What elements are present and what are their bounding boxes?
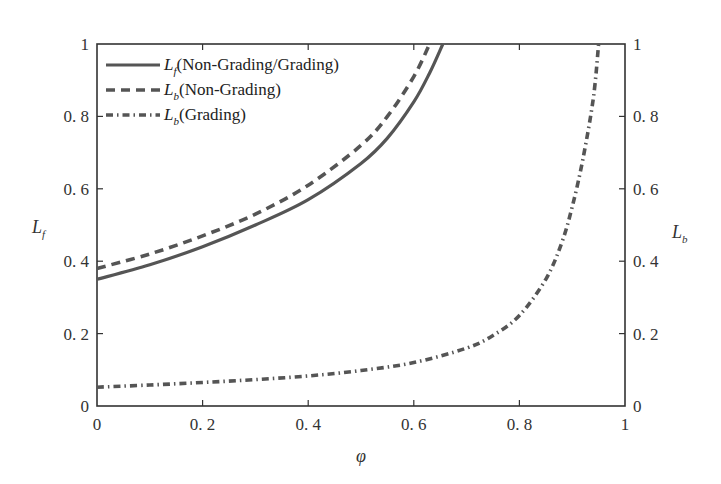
y-tick-label-right: 0. 4 (633, 252, 659, 271)
y-tick-label-right: 0. 2 (633, 325, 659, 344)
y-tick-label-right: 1 (633, 35, 642, 54)
y-tick-label-right: 0. 6 (633, 180, 659, 199)
x-tick-label: 0. 8 (507, 415, 533, 434)
y-tick-label-left: 0 (81, 397, 90, 416)
x-tick-label: 0. 6 (401, 415, 427, 434)
y-tick-label-right: 0 (633, 397, 642, 416)
y-tick-label-left: 0. 6 (64, 180, 90, 199)
x-tick-label: 0. 4 (295, 415, 321, 434)
legend: Lf(Non-Grading/Grading)Lb(Non-Grading)Lb… (106, 55, 339, 127)
legend-label-1: Lb(Non-Grading) (163, 80, 281, 102)
y-axis-title-right: Lb (671, 222, 688, 245)
axis-titles: φLfLb (31, 217, 688, 466)
y-tick-label-right: 0. 8 (633, 107, 659, 126)
y-axis-title-left: Lf (31, 217, 47, 240)
y-tick-label-left: 0. 4 (64, 252, 90, 271)
legend-label-2: Lb(Grading) (163, 105, 246, 127)
line-chart: 00. 20. 40. 60. 8100. 20. 40. 60. 8100. … (0, 0, 721, 484)
y-tick-label-left: 0. 2 (64, 325, 90, 344)
x-tick-label: 1 (621, 415, 630, 434)
series-line-1 (97, 44, 430, 268)
x-axis-title: φ (356, 446, 366, 466)
x-tick-label: 0. 2 (190, 415, 216, 434)
legend-label-0: Lf(Non-Grading/Grading) (163, 55, 339, 77)
y-tick-label-left: 1 (81, 35, 90, 54)
axis-ticks: 00. 20. 40. 60. 8100. 20. 40. 60. 8100. … (64, 35, 660, 434)
x-tick-label: 0 (93, 415, 102, 434)
y-tick-label-left: 0. 8 (64, 107, 90, 126)
